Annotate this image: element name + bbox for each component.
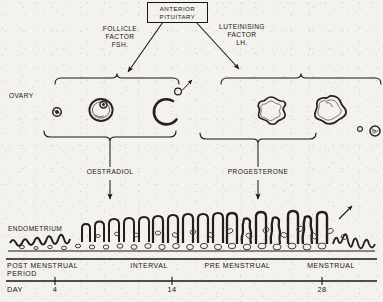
ovary-label: OVARY bbox=[9, 92, 33, 100]
primordial-follicle-icon bbox=[53, 108, 62, 117]
follicular-phase-bracket bbox=[55, 74, 179, 85]
menstrual-cycle-diagram bbox=[0, 0, 383, 302]
endometrium-illustration bbox=[8, 206, 375, 251]
ovulation-rupture-icon bbox=[154, 99, 177, 124]
ovum-release-arrow bbox=[182, 80, 192, 91]
endometrium-label: ENDOMETRIUM bbox=[8, 225, 62, 233]
lh-label: LUTEINISING FACTOR LH. bbox=[200, 23, 284, 46]
day-axis-label: DAY bbox=[7, 286, 23, 295]
anterior-pituitary-line2: PITUITARY bbox=[160, 13, 196, 21]
corpus-albicans-icon bbox=[370, 126, 380, 136]
phase-label-interval: INTERVAL bbox=[108, 262, 190, 270]
fsh-label-line1: FOLLICLE bbox=[84, 25, 156, 33]
phase-label-post-menstrual: POST MENSTRUAL PERIOD bbox=[7, 262, 78, 279]
phase-label-pre-menstrual: PRE MENSTRUAL bbox=[190, 262, 285, 270]
day-tick-28: 28 bbox=[312, 286, 332, 295]
corpus-luteum-late-icon bbox=[315, 96, 346, 124]
oestradiol-label: OESTRADIOL bbox=[70, 168, 150, 176]
progesterone-label: PROGESTERONE bbox=[212, 168, 304, 176]
fsh-label: FOLLICLE FACTOR FSH. bbox=[84, 25, 156, 48]
phase-post-menstrual-line2: PERIOD bbox=[7, 270, 78, 278]
progesterone-bracket bbox=[200, 133, 316, 144]
day-tick-4: 4 bbox=[45, 286, 65, 295]
fsh-label-line2: FACTOR bbox=[84, 33, 156, 41]
phase-post-menstrual-line1: POST MENSTRUAL bbox=[7, 262, 78, 270]
phase-label-menstrual: MENSTRUAL bbox=[285, 262, 377, 270]
corpus-luteum-early-icon bbox=[258, 97, 285, 124]
lh-label-line3: LH. bbox=[200, 39, 284, 47]
anterior-pituitary-box[interactable]: ANTERIOR PITUITARY bbox=[147, 2, 208, 23]
released-ovum-icon bbox=[175, 88, 182, 95]
day-tick-14: 14 bbox=[162, 286, 182, 295]
corpus-albicans-small-icon bbox=[358, 127, 363, 132]
graafian-follicle-icon bbox=[89, 99, 112, 121]
luteal-phase-bracket bbox=[221, 74, 381, 85]
fsh-label-line3: FSH. bbox=[84, 41, 156, 49]
anterior-pituitary-line1: ANTERIOR bbox=[160, 5, 196, 13]
oestradiol-bracket bbox=[44, 131, 176, 142]
lh-label-line1: LUTEINISING bbox=[200, 23, 284, 31]
lh-label-line2: FACTOR bbox=[200, 31, 284, 39]
